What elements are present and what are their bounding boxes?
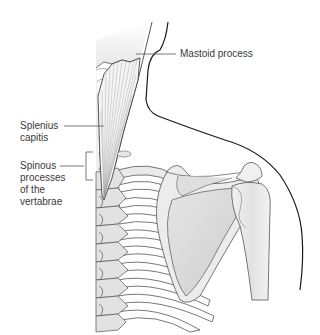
label-mastoid-process: Mastoid process (180, 48, 253, 60)
label-spinous-line-3: of the (20, 184, 66, 196)
label-spinous-line-2: processes (20, 172, 66, 184)
thoracic-vertebrae (96, 168, 128, 332)
label-splenius-line-1: Splenius (20, 120, 58, 132)
spinous-bracket (86, 152, 93, 180)
label-spinous-processes: Spinous processes of the vertabrae (20, 160, 66, 208)
label-splenius-capitis: Splenius capitis (20, 120, 58, 144)
label-spinous-line-4: vertabrae (20, 196, 66, 208)
acromion (236, 162, 262, 182)
label-splenius-line-2: capitis (20, 132, 58, 144)
humerus (232, 182, 271, 300)
anatomy-diagram: Mastoid process Splenius capitis Spinous… (0, 0, 320, 335)
label-spinous-line-1: Spinous (20, 160, 66, 172)
